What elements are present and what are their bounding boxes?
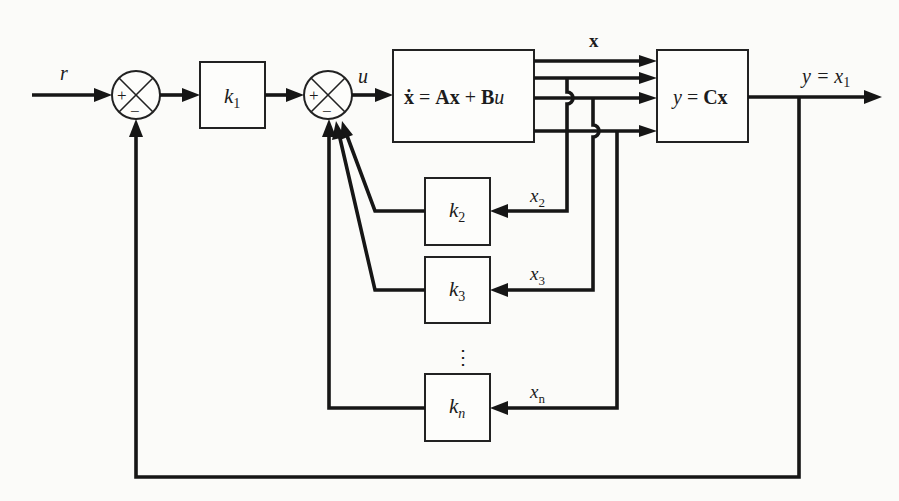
sum2-plus-sign: +: [309, 86, 319, 105]
gain-block-kn: kn: [425, 374, 490, 441]
label-x2: x2: [529, 185, 545, 210]
gain-block-k1: k1: [200, 62, 265, 128]
state-feedback-diagram: r + − k1 + − u ẋ = Ax + Bu: [0, 0, 899, 501]
label-output: y = x1: [800, 65, 850, 90]
sum1-plus-sign: +: [117, 86, 127, 105]
summing-junction-2: + −: [304, 71, 352, 121]
sum2-minus-sign: −: [322, 102, 332, 121]
output-line: [748, 90, 882, 104]
ellipsis-more-gains: ⋮: [453, 346, 473, 368]
summing-junction-1: + −: [112, 71, 160, 121]
k1-to-sum2-line: [265, 88, 304, 102]
reference-input-line: [32, 88, 112, 102]
sum1-minus-sign: −: [130, 102, 140, 121]
label-u: u: [358, 65, 368, 87]
feedback-xn-path: [490, 131, 617, 415]
output-equation: y = Cx: [671, 86, 728, 109]
sum1-to-k1-line: [160, 88, 200, 102]
label-xn: xn: [529, 381, 545, 406]
plant-equation: ẋ = Ax + Bu: [404, 86, 504, 108]
gain-block-k2: k2: [425, 178, 490, 245]
plant-block: ẋ = Ax + Bu: [393, 50, 534, 142]
k3-to-sum2-line: [332, 121, 425, 290]
label-x3: x3: [529, 263, 545, 288]
control-signal-line: [352, 88, 393, 102]
output-block: y = Cx: [657, 50, 748, 142]
kn-to-sum2-line: [322, 119, 425, 408]
label-state-vector: x: [589, 30, 599, 51]
gain-block-k3: k3: [425, 257, 490, 323]
label-r: r: [60, 62, 68, 84]
